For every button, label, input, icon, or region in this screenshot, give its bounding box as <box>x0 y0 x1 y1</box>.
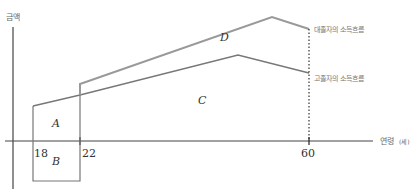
region-label-a: A <box>51 117 60 130</box>
region-label-d: D <box>219 31 229 44</box>
y-axis-label: 금액 <box>6 12 20 22</box>
x-axis-label: 연령 <box>380 137 394 146</box>
income-stream-diagram: 금액 연령 (세) 18 22 60 A B C D 대졸자의 소득흐름 고졸자… <box>0 0 416 189</box>
cost-box <box>33 95 80 181</box>
x-axis-unit: (세) <box>399 138 410 146</box>
tick-label-60: 60 <box>301 147 315 160</box>
tick-label-22: 22 <box>82 147 96 160</box>
highschool-income-line <box>33 55 309 106</box>
tick-label-18: 18 <box>34 147 48 160</box>
region-label-b: B <box>51 155 60 168</box>
highschool-curve-label: 고졸자의 소득흐름 <box>314 74 365 83</box>
college-curve-label: 대졸자의 소득흐름 <box>314 25 365 34</box>
college-income-line <box>80 17 309 95</box>
region-label-c: C <box>198 94 207 107</box>
